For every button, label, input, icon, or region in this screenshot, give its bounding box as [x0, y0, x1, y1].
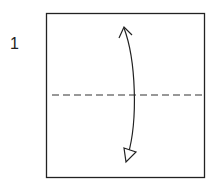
- origami-diagram: [0, 0, 218, 190]
